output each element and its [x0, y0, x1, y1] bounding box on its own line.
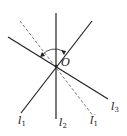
point-O	[55, 65, 58, 68]
geometry-diagram: O l1l2l3l1′	[0, 0, 127, 136]
line-l3	[8, 37, 108, 99]
line-label-l1prime: l1′	[90, 113, 98, 128]
arc-arrowhead-icon	[61, 50, 66, 55]
line-label-l1: l1	[18, 114, 26, 128]
line-l1prime	[20, 21, 94, 117]
point-O-label: O	[61, 56, 70, 69]
line-label-l3: l3	[111, 100, 119, 114]
line-label-l2: l2	[59, 116, 67, 130]
